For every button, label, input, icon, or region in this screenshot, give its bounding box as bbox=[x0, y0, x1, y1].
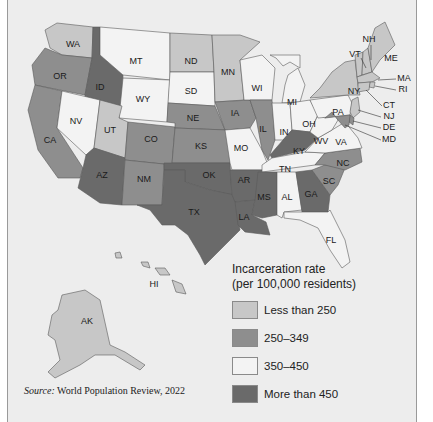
label-id: ID bbox=[96, 82, 106, 92]
label-ne: NE bbox=[187, 113, 200, 123]
label-oh: OH bbox=[302, 119, 316, 129]
state-ak bbox=[48, 290, 145, 378]
label-ms: MS bbox=[257, 192, 271, 202]
label-de: DE bbox=[383, 122, 396, 132]
legend-item: Less than 250 bbox=[232, 300, 412, 320]
legend-swatch bbox=[232, 357, 258, 375]
label-wi: WI bbox=[252, 83, 263, 93]
label-md: MD bbox=[382, 134, 396, 144]
legend: Incarceration rate (per 100,000 resident… bbox=[232, 262, 412, 404]
legend-swatch bbox=[232, 385, 258, 403]
label-tn: TN bbox=[279, 164, 291, 174]
label-mt: MT bbox=[130, 56, 143, 66]
label-ct: CT bbox=[383, 100, 395, 110]
label-mo: MO bbox=[234, 143, 249, 153]
label-pa: PA bbox=[332, 107, 343, 117]
label-or: OR bbox=[53, 71, 67, 81]
label-ga: GA bbox=[304, 189, 317, 199]
label-ia: IA bbox=[231, 108, 240, 118]
label-wa: WA bbox=[66, 39, 80, 49]
state-fl bbox=[284, 210, 350, 268]
legend-swatch bbox=[232, 301, 258, 319]
label-mi: MI bbox=[287, 97, 297, 107]
label-ma: MA bbox=[397, 73, 411, 83]
legend-item: 350–450 bbox=[232, 356, 412, 376]
label-mn: MN bbox=[221, 67, 235, 77]
label-hi: HI bbox=[150, 279, 159, 289]
label-ks: KS bbox=[195, 141, 207, 151]
label-va: VA bbox=[335, 137, 346, 147]
label-tx: TX bbox=[188, 207, 200, 217]
label-il: IL bbox=[259, 124, 267, 134]
label-co: CO bbox=[144, 134, 158, 144]
label-az: AZ bbox=[96, 170, 108, 180]
state-mi bbox=[270, 55, 305, 103]
label-nc: NC bbox=[337, 158, 350, 168]
legend-swatch bbox=[232, 329, 258, 347]
label-nh: NH bbox=[363, 34, 376, 44]
legend-item: More than 450 bbox=[232, 384, 412, 404]
label-ar: AR bbox=[238, 175, 251, 185]
label-in: IN bbox=[280, 127, 289, 137]
label-ny: NY bbox=[348, 86, 361, 96]
label-al: AL bbox=[281, 192, 292, 202]
label-wy: WY bbox=[136, 94, 151, 104]
label-sd: SD bbox=[185, 86, 198, 96]
label-sc: SC bbox=[323, 176, 336, 186]
label-vt: VT bbox=[349, 49, 361, 59]
label-ak: AK bbox=[81, 316, 93, 326]
label-ri: RI bbox=[399, 84, 408, 94]
state-nj bbox=[350, 97, 360, 118]
label-nm: NM bbox=[137, 174, 151, 184]
label-nd: ND bbox=[185, 56, 198, 66]
label-nv: NV bbox=[70, 116, 83, 126]
label-nj: NJ bbox=[384, 111, 395, 121]
label-me: ME bbox=[384, 53, 398, 63]
state-me bbox=[368, 22, 395, 72]
label-fl: FL bbox=[326, 235, 337, 245]
source-note: Source: World Population Review, 2022 bbox=[24, 385, 185, 396]
label-wv: WV bbox=[314, 136, 329, 146]
label-ky: KY bbox=[293, 146, 305, 156]
legend-title: Incarceration rate (per 100,000 resident… bbox=[232, 262, 412, 292]
label-la: LA bbox=[238, 212, 249, 222]
label-ca: CA bbox=[44, 135, 57, 145]
label-ok: OK bbox=[202, 170, 215, 180]
label-ut: UT bbox=[104, 125, 116, 135]
legend-item: 250–349 bbox=[232, 328, 412, 348]
